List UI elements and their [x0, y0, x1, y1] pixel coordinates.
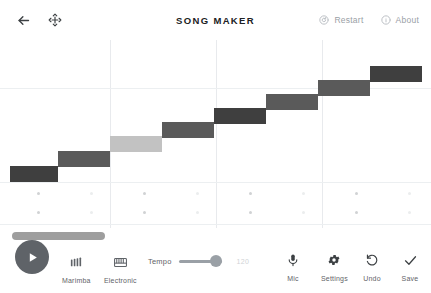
percussion-dot[interactable]	[408, 211, 411, 214]
instrument-marimba-label: Marimba	[62, 277, 91, 284]
restart-circle-icon	[319, 15, 329, 25]
grid-note[interactable]	[214, 108, 266, 124]
grid-bar-divider-2	[216, 40, 217, 228]
percussion-dot[interactable]	[355, 192, 358, 195]
song-scrollbar-track[interactable]	[0, 232, 431, 240]
percussion-dot[interactable]	[90, 192, 93, 195]
percussion-dot[interactable]	[90, 211, 93, 214]
tempo-slider[interactable]	[179, 255, 222, 267]
about-label: About	[396, 15, 419, 25]
song-scrollbar-thumb[interactable]	[12, 232, 105, 240]
save-button[interactable]: Save	[398, 248, 422, 282]
move-arrows-icon[interactable]	[46, 11, 64, 29]
instrument-electronic-label: Electronic	[104, 277, 137, 284]
grid-bar-divider-3	[322, 40, 323, 228]
electronic-keys-icon	[108, 250, 132, 274]
tempo-control[interactable]: Tempo 120	[148, 255, 249, 267]
header-left-controls	[14, 11, 64, 29]
microphone-icon	[281, 248, 305, 272]
grid-note[interactable]	[370, 66, 422, 82]
percussion-dot[interactable]	[143, 211, 146, 214]
tempo-label: Tempo	[148, 257, 172, 266]
instrument-marimba-button[interactable]: Marimba	[62, 250, 91, 284]
percussion-dot[interactable]	[249, 192, 252, 195]
grid-note[interactable]	[266, 94, 318, 110]
info-circle-icon	[381, 15, 391, 25]
play-button[interactable]	[15, 240, 49, 274]
percussion-dot[interactable]	[302, 192, 305, 195]
tempo-slider-knob[interactable]	[210, 255, 222, 267]
marimba-bars-icon	[64, 250, 88, 274]
percussion-dot[interactable]	[143, 192, 146, 195]
percussion-dot[interactable]	[37, 211, 40, 214]
header-right-controls: Restart About	[319, 15, 419, 25]
save-label: Save	[402, 275, 419, 282]
grid-note[interactable]	[58, 151, 110, 167]
percussion-dot[interactable]	[196, 211, 199, 214]
settings-button[interactable]: Settings	[321, 248, 348, 282]
percussion-dot[interactable]	[249, 211, 252, 214]
instrument-electronic-button[interactable]: Electronic	[104, 250, 137, 284]
grid-note[interactable]	[110, 136, 162, 152]
undo-button[interactable]: Undo	[360, 248, 384, 282]
grid-bar-divider-1	[110, 40, 111, 228]
grid-melody-baseline	[0, 182, 431, 183]
grid-note[interactable]	[10, 166, 58, 182]
mic-button[interactable]: Mic	[281, 248, 305, 282]
grid-percussion-baseline	[0, 224, 431, 225]
grid-note[interactable]	[318, 80, 370, 96]
restart-label: Restart	[334, 15, 363, 25]
percussion-dot[interactable]	[302, 211, 305, 214]
percussion-dot[interactable]	[408, 192, 411, 195]
back-arrow-icon[interactable]	[14, 11, 32, 29]
restart-button[interactable]: Restart	[319, 15, 363, 25]
about-button[interactable]: About	[381, 15, 419, 25]
undo-label: Undo	[363, 275, 381, 282]
app-header: SONG MAKER Restart About	[0, 0, 431, 40]
tempo-value: 120	[237, 258, 250, 265]
settings-label: Settings	[321, 275, 348, 282]
sequencer-grid[interactable]	[0, 40, 431, 228]
grid-note[interactable]	[162, 122, 214, 138]
percussion-dot[interactable]	[355, 211, 358, 214]
gear-icon	[322, 248, 346, 272]
percussion-dot[interactable]	[37, 192, 40, 195]
checkmark-icon	[398, 248, 422, 272]
undo-arrow-icon	[360, 248, 384, 272]
percussion-dot[interactable]	[196, 192, 199, 195]
mic-label: Mic	[287, 275, 299, 282]
